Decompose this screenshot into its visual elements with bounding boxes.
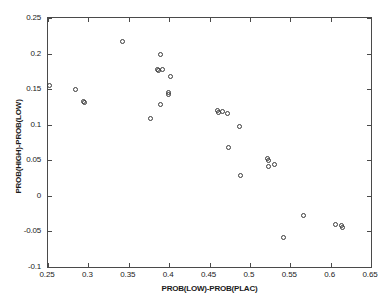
data-point: [266, 164, 271, 169]
data-point: [272, 162, 277, 167]
data-point: [225, 111, 230, 116]
x-tick-label: 0.3: [82, 270, 93, 279]
y-tick-label: 0.15: [0, 84, 41, 93]
x-tick: [169, 263, 170, 267]
data-point: [237, 124, 242, 129]
y-tick-label: 0.2: [0, 48, 41, 57]
y-tick: [48, 89, 52, 90]
x-tick: [88, 263, 89, 267]
y-tick-label: -0.1: [0, 262, 41, 271]
x-tick-top: [88, 18, 89, 22]
x-tick-label: 0.25: [40, 270, 55, 279]
x-tick-label: 0.4: [163, 270, 174, 279]
data-point: [73, 87, 78, 92]
y-tick-right: [367, 267, 371, 268]
y-tick-right: [367, 196, 371, 197]
y-tick-label: 0.05: [0, 155, 41, 164]
x-tick-label: 0.35: [120, 270, 135, 279]
x-tick-label: 0.5: [244, 270, 255, 279]
x-tick-top: [210, 18, 211, 22]
data-point: [158, 52, 163, 57]
y-tick-label: 0.1: [0, 119, 41, 128]
data-point: [238, 173, 243, 178]
y-tick-right: [367, 89, 371, 90]
data-point: [281, 235, 286, 240]
x-tick: [129, 263, 130, 267]
x-axis-label: PROB(LOW)-PROB(PLAC): [47, 284, 372, 293]
data-point: [266, 158, 271, 163]
y-tick-right: [367, 125, 371, 126]
y-tick: [48, 18, 52, 19]
x-tick-top: [250, 18, 251, 22]
plot-area: [47, 17, 372, 268]
data-point: [160, 67, 165, 72]
x-tick-label: 0.6: [324, 270, 335, 279]
x-tick-top: [290, 18, 291, 22]
data-point: [47, 83, 52, 88]
x-tick-label: 0.45: [201, 270, 216, 279]
data-point: [333, 222, 338, 227]
data-point: [168, 74, 173, 79]
x-tick-top: [169, 18, 170, 22]
x-tick-top: [371, 18, 372, 22]
scatter-plot-figure: PROB(LOW)-PROB(PLAC) PROB(HIGH)-PROB(LOW…: [0, 0, 392, 305]
data-point: [340, 225, 345, 230]
x-tick-label: 0.55: [282, 270, 297, 279]
data-point: [166, 92, 171, 97]
y-tick-label: 0: [0, 190, 41, 199]
x-tick-top: [331, 18, 332, 22]
x-tick: [331, 263, 332, 267]
y-tick: [48, 231, 52, 232]
y-tick: [48, 160, 52, 161]
x-tick-label: 0.65: [363, 270, 378, 279]
y-tick-right: [367, 54, 371, 55]
data-point: [158, 102, 163, 107]
data-point: [120, 39, 125, 44]
data-point: [82, 100, 87, 105]
y-tick: [48, 54, 52, 55]
y-tick-right: [367, 160, 371, 161]
y-tick-right: [367, 18, 371, 19]
x-tick: [250, 263, 251, 267]
x-tick: [290, 263, 291, 267]
x-tick-top: [129, 18, 130, 22]
x-tick: [371, 263, 372, 267]
y-tick: [48, 125, 52, 126]
data-point: [148, 116, 153, 121]
y-tick: [48, 267, 52, 268]
y-tick-right: [367, 231, 371, 232]
data-point: [301, 213, 306, 218]
y-tick: [48, 196, 52, 197]
data-point: [226, 145, 231, 150]
x-tick: [210, 263, 211, 267]
y-tick-label: -0.05: [0, 226, 41, 235]
y-tick-label: 0.25: [0, 13, 41, 22]
data-point: [220, 109, 225, 114]
